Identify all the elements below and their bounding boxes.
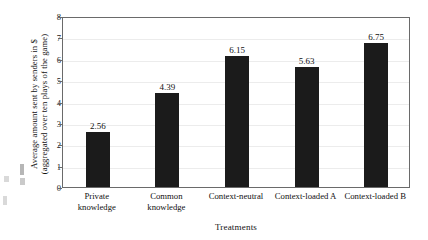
scan-artifact (20, 164, 24, 175)
y-axis-title-line2: (aggregated over ten plays of the game) (39, 34, 49, 174)
x-axis-tick-label: Context-neutral (201, 191, 271, 202)
y-axis-title: Average amount sent by senders in $ (agg… (26, 16, 52, 192)
bar-value-label: 6.15 (213, 46, 261, 55)
scan-artifact (3, 196, 7, 205)
bar[interactable] (155, 93, 179, 187)
x-axis-tick-label: Private knowledge (62, 191, 132, 213)
bar[interactable] (225, 56, 249, 187)
x-axis-tick-label: Context-loaded A (271, 191, 341, 202)
x-axis-tick-label: Common knowledge (132, 191, 202, 213)
scan-artifact (4, 176, 9, 182)
bar[interactable] (295, 67, 319, 187)
bar-value-label: 6.75 (352, 33, 400, 42)
bar[interactable] (86, 132, 110, 187)
bar-value-label: 4.39 (143, 83, 191, 92)
bar[interactable] (364, 43, 388, 187)
bar-chart-figure: Average amount sent by senders in $ (agg… (0, 0, 428, 240)
y-axis-tick-mark (58, 188, 62, 189)
plot-area: 2.564.396.155.636.75 (62, 17, 410, 188)
y-axis-title-line1: Average amount sent by senders in $ (29, 39, 39, 169)
bar-value-label: 5.63 (283, 57, 331, 66)
x-axis-title: Treatments (62, 222, 410, 232)
scan-artifact (20, 178, 25, 185)
bar-value-label: 2.56 (74, 122, 122, 131)
x-axis-tick-label: Context-loaded B (340, 191, 410, 202)
x-axis-tick-labels: Private knowledgeCommon knowledgeContext… (62, 191, 410, 221)
